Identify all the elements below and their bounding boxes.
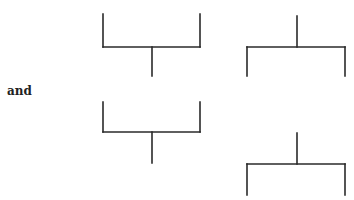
- bottom-right-bracket: [247, 133, 345, 195]
- bottom-left-bracket: [103, 102, 200, 163]
- shapes-layer: [103, 14, 345, 195]
- bracket-diagram: [0, 0, 354, 200]
- top-left-bracket: [103, 14, 200, 76]
- top-right-bracket: [247, 16, 345, 76]
- connector-word-and: and: [7, 84, 32, 98]
